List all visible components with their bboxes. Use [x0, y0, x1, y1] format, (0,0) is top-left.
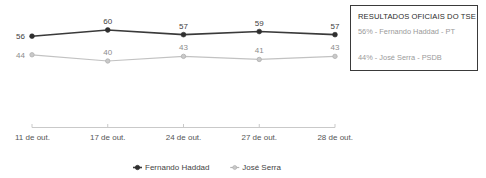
data-point-label: 44: [16, 51, 25, 60]
data-point-label: 57: [179, 22, 188, 31]
data-point: [333, 54, 337, 58]
data-point: [257, 29, 262, 34]
x-axis-tick-labels: 11 de out.17 de out.24 de out.27 de out.…: [15, 133, 353, 142]
chart-legend: Fernando HaddadJosé Serra: [133, 163, 281, 172]
annotation-result-haddad: 56% - Fernando Haddad - PT: [358, 27, 477, 36]
data-point-label: 43: [179, 43, 188, 52]
x-axis-tick-label: 17 de out.: [90, 133, 126, 142]
data-point-label: 57: [331, 22, 340, 31]
x-axis-tick-label: 11 de out.: [15, 133, 50, 142]
results-annotation-box: RESULTADOS OFICIAIS DO TSE 56% - Fernand…: [350, 5, 478, 71]
data-point: [181, 54, 185, 58]
data-point: [30, 53, 34, 57]
line-chart: 5660575957 4440434143 11 de out.17 de ou…: [0, 0, 486, 178]
series-value-labels-fernando-haddad: 5660575957: [16, 17, 340, 41]
legend-item-label[interactable]: José Serra: [242, 163, 281, 172]
data-point-label: 59: [255, 19, 264, 28]
data-point: [333, 32, 338, 37]
data-point: [30, 34, 35, 39]
annotation-title: RESULTADOS OFICIAIS DO TSE: [358, 12, 477, 21]
data-point: [106, 59, 110, 63]
data-point-label: 56: [16, 32, 25, 41]
x-axis-tick-label: 24 de out.: [166, 133, 202, 142]
x-axis-tick-label: 28 de out.: [317, 133, 353, 142]
x-axis-tick-label: 27 de out.: [241, 133, 277, 142]
data-point-label: 43: [331, 43, 340, 52]
legend-item-label[interactable]: Fernando Haddad: [145, 163, 210, 172]
data-point: [257, 57, 261, 61]
legend-swatch-marker: [135, 165, 139, 169]
data-point-label: 40: [103, 48, 112, 57]
legend-swatch-marker: [233, 166, 237, 170]
annotation-result-serra: 44% - José Serra - PSDB: [358, 53, 477, 62]
data-point: [105, 28, 110, 33]
data-point-label: 60: [103, 17, 112, 26]
x-axis-ticks: [32, 124, 335, 128]
data-point-label: 41: [255, 46, 264, 55]
data-point: [181, 32, 186, 37]
